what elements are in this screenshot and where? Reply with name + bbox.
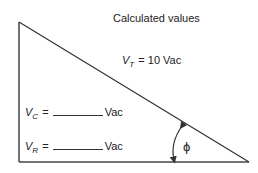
- vr-blank-field[interactable]: [53, 140, 103, 150]
- phase-angle-label: ϕ: [183, 140, 190, 153]
- vr-equals: =: [42, 140, 48, 152]
- vr-subscript: R: [32, 146, 38, 155]
- vc-equals: =: [42, 106, 48, 118]
- vr-unit: Vac: [105, 140, 123, 152]
- voltage-triangle-diagram: Calculated values VT = 10 Vac VC =Vac VR…: [0, 0, 258, 173]
- vt-subscript: T: [129, 60, 134, 69]
- vt-value: 10 Vac: [148, 54, 181, 66]
- angle-arc-arrow: [173, 126, 182, 160]
- vc-label: VC =Vac: [25, 106, 123, 118]
- vc-blank-field[interactable]: [53, 106, 103, 116]
- vc-subscript: C: [32, 112, 38, 121]
- vt-equals: =: [138, 54, 144, 66]
- calculated-values-title: Calculated values: [113, 13, 200, 24]
- vc-unit: Vac: [105, 106, 123, 118]
- vr-label: VR =Vac: [25, 140, 123, 152]
- vt-label: VT = 10 Vac: [122, 55, 181, 66]
